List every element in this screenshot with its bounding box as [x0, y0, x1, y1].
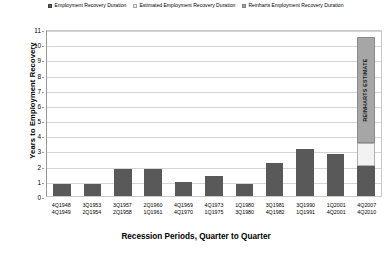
legend-item-reinhart: Reinharts Employment Recovery Duration — [242, 2, 343, 9]
legend-item-actual: Employment Recovery Duration — [48, 2, 126, 9]
bar-stack[interactable] — [236, 184, 254, 196]
bar-stack[interactable] — [175, 182, 193, 196]
bar-segment-actual[interactable] — [357, 166, 375, 196]
x-axis-tick-label: 3Q19814Q1982 — [260, 199, 291, 221]
bar-stack[interactable] — [144, 169, 162, 196]
bar-segment-actual[interactable] — [327, 154, 345, 197]
reinhart-estimate-label: REINHARTS ESTIMATE — [363, 58, 369, 121]
bar-segment-actual[interactable] — [175, 182, 193, 196]
bar-stack[interactable] — [327, 154, 345, 197]
bar-segment-actual[interactable] — [236, 184, 254, 196]
x-axis-tick-label-line: 4Q1948 — [46, 202, 77, 209]
bar-stack[interactable] — [84, 184, 102, 196]
y-axis-tick-mark — [42, 31, 45, 32]
bar-segment-actual[interactable] — [266, 163, 284, 196]
y-axis-tick-label: 0 — [1, 194, 41, 201]
x-axis-tick-label: 3Q19572Q1958 — [107, 199, 138, 221]
x-axis-tick-label: 4Q19694Q1970 — [168, 199, 199, 221]
bar-segment-estimated[interactable] — [357, 143, 375, 166]
bar-stack[interactable] — [114, 169, 132, 196]
x-axis-tick-label: 4Q19731Q1975 — [199, 199, 230, 221]
y-axis-tick-label: 10 — [1, 43, 41, 50]
x-axis-tick-label-line: 1Q1991 — [290, 209, 321, 216]
bar-slot — [320, 31, 350, 196]
legend-label-actual: Employment Recovery Duration — [54, 2, 126, 9]
bar-stack[interactable] — [53, 184, 71, 196]
bar-segment-actual[interactable] — [296, 149, 314, 196]
x-axis-tick-label-line: 1Q2001 — [321, 202, 352, 209]
bar-slot — [229, 31, 259, 196]
bar-stack[interactable] — [266, 163, 284, 196]
x-axis-tick-label: 1Q19803Q1980 — [229, 199, 260, 221]
light-swatch-icon — [133, 4, 137, 8]
y-axis-tick-mark — [42, 152, 45, 153]
x-axis-tick-label-line: 4Q1973 — [199, 202, 230, 209]
y-axis-tick-mark — [42, 183, 45, 184]
x-axis-tick-label-line: 4Q1970 — [168, 209, 199, 216]
bar-slot — [199, 31, 229, 196]
y-axis-tick-mark — [42, 122, 45, 123]
bar-slot: REINHARTS ESTIMATE — [351, 31, 381, 196]
bar-slot — [77, 31, 107, 196]
reinhart-estimate-annotation: REINHARTS ESTIMATE — [358, 38, 374, 142]
chart-legend: Employment Recovery Duration Estimated E… — [0, 2, 392, 9]
y-axis-tick-label: 6 — [1, 103, 41, 110]
y-axis-tick-mark — [42, 92, 45, 93]
y-axis-tick-mark — [42, 77, 45, 78]
bar-slot — [138, 31, 168, 196]
y-axis-tick-label: 11 — [1, 27, 41, 34]
x-axis-tick-labels: 4Q19484Q19493Q19532Q19543Q19572Q19582Q19… — [46, 199, 382, 221]
bar-slot — [108, 31, 138, 196]
bar-stack[interactable] — [205, 176, 223, 196]
bar-segment-actual[interactable] — [114, 169, 132, 196]
bar-segment-actual[interactable] — [205, 176, 223, 196]
bar-slot — [47, 31, 77, 196]
bar-slot — [290, 31, 320, 196]
y-axis-tick-mark — [42, 168, 45, 169]
y-axis-tick-label: 4 — [1, 134, 41, 141]
y-axis-tick-mark — [42, 107, 45, 108]
bar-stack[interactable]: REINHARTS ESTIMATE — [357, 37, 375, 196]
x-axis-tick-label: 4Q19484Q1949 — [46, 199, 77, 221]
y-axis-tick-label: 9 — [1, 58, 41, 65]
dark-swatch-icon — [48, 4, 52, 8]
x-axis-title: Recession Periods, Quarter to Quarter — [0, 232, 392, 241]
x-axis-tick-label-line: 2Q1954 — [77, 209, 108, 216]
x-axis-tick-label-line: 3Q1953 — [77, 202, 108, 209]
y-axis-tick-label: 1 — [1, 179, 41, 186]
x-axis-tick-label-line: 3Q1981 — [260, 202, 291, 209]
x-axis-tick-label-line: 4Q1949 — [46, 209, 77, 216]
y-axis-tick-mark — [42, 46, 45, 47]
plot-area: 11109876543210 REINHARTS ESTIMATE — [46, 30, 382, 197]
bar-stack[interactable] — [296, 149, 314, 196]
x-axis-tick-label-line: 3Q1980 — [229, 209, 260, 216]
x-axis-tick-label-line: 1Q1975 — [199, 209, 230, 216]
y-axis-tick-label: 5 — [1, 118, 41, 125]
x-axis-tick-label: 1Q20014Q2001 — [321, 199, 352, 221]
x-axis-tick-label-line: 4Q1969 — [168, 202, 199, 209]
bar-segment-actual[interactable] — [84, 184, 102, 196]
x-axis-tick-label-line: 2Q1960 — [138, 202, 169, 209]
y-axis-tick-label: 3 — [1, 149, 41, 156]
x-axis-tick-label-line: 3Q1957 — [107, 202, 138, 209]
y-axis-tick-mark — [42, 61, 45, 62]
gray-swatch-icon — [242, 4, 246, 8]
bar-segment-actual[interactable] — [144, 169, 162, 196]
y-axis-tick-mark — [42, 137, 45, 138]
bar-slot — [260, 31, 290, 196]
x-axis-tick-label-line: 4Q2007 — [351, 202, 382, 209]
y-axis-tick-label: 8 — [1, 73, 41, 80]
x-axis-tick-label: 3Q19532Q1954 — [77, 199, 108, 221]
x-axis-tick-label-line: 1Q1961 — [138, 209, 169, 216]
bar-segment-actual[interactable] — [53, 184, 71, 196]
x-axis-tick-label-line: 2Q1958 — [107, 209, 138, 216]
legend-label-estimated: Estimated Employment Recovery Duration — [139, 2, 235, 9]
bar-segment-reinhart[interactable]: REINHARTS ESTIMATE — [357, 37, 375, 143]
y-axis-tick-label: 2 — [1, 164, 41, 171]
x-axis-tick-label-line: 1Q1980 — [229, 202, 260, 209]
x-axis-tick-label: 2Q19601Q1961 — [138, 199, 169, 221]
bar-series-group: REINHARTS ESTIMATE — [47, 31, 381, 196]
bar-slot — [168, 31, 198, 196]
x-axis-tick-label-line: 4Q1982 — [260, 209, 291, 216]
y-axis-tick-label: 7 — [1, 88, 41, 95]
